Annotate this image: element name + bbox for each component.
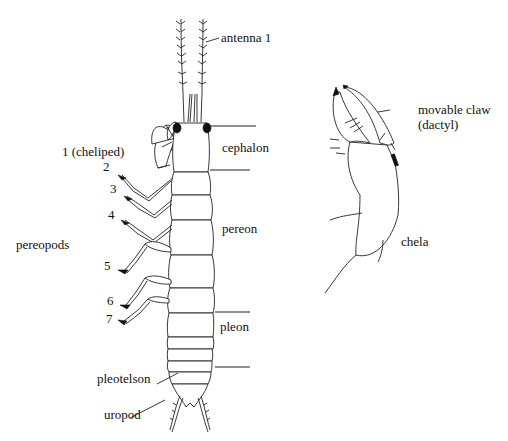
label-pereon: pereon <box>222 222 257 236</box>
label-pleotelson: pleotelson <box>97 372 150 386</box>
leg-number-2: 2 <box>103 160 110 174</box>
leg-number-6: 6 <box>107 294 114 308</box>
label-pleon: pleon <box>220 320 249 334</box>
label-cephalon: cephalon <box>222 141 269 155</box>
chela-palm <box>348 142 399 256</box>
antenna-leader-line <box>206 38 219 42</box>
label-movable-claw: movable claw <box>418 103 491 117</box>
label-chela: chela <box>401 235 428 249</box>
pereopods <box>118 175 173 325</box>
label-dactyl: (dactyl) <box>418 118 458 132</box>
leg-number-4: 4 <box>108 208 115 222</box>
leg-number-3: 3 <box>110 182 117 196</box>
leg-number-7: 7 <box>106 312 113 326</box>
antenna-1-pair <box>176 19 207 122</box>
chela-detail <box>325 85 399 293</box>
label-uropod: uropod <box>104 408 141 422</box>
label-antenna-1: antenna 1 <box>221 31 271 45</box>
label-cheliped: 1 (cheliped) <box>62 145 124 159</box>
body <box>167 123 214 407</box>
label-pereopods: pereopods <box>16 238 69 252</box>
eye-left <box>173 123 181 133</box>
leg-number-5: 5 <box>104 259 111 273</box>
eye-right <box>203 123 211 133</box>
